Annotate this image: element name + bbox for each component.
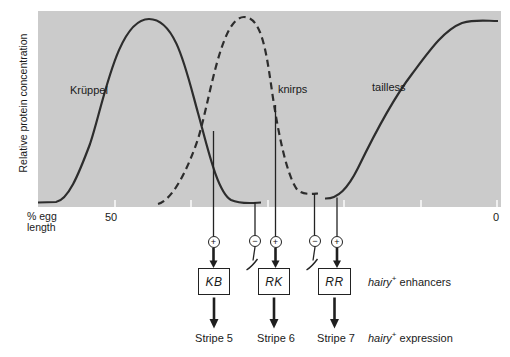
enhancer-box-rr: RR — [318, 268, 351, 295]
tick-label-50: 50 — [105, 211, 117, 223]
figure-root: Relative protein concentration % egg len… — [0, 0, 510, 357]
repression-line — [313, 247, 315, 261]
x-axis-label: % egg length — [27, 211, 57, 232]
plus-circle-icon: + — [331, 236, 343, 248]
expression-arrowhead — [330, 319, 339, 329]
enhancer-box-kb: KB — [198, 268, 230, 295]
activation-arrowhead — [333, 261, 341, 269]
gene-name: hairy — [368, 332, 392, 344]
plot-area — [38, 11, 501, 207]
x-tick — [190, 200, 192, 207]
stripe-7-label: Stripe 7 — [317, 332, 355, 344]
minus-circle-icon: − — [309, 235, 321, 247]
x-tick — [267, 200, 269, 207]
gene-superscript: + — [392, 330, 397, 339]
activation-arrows — [210, 248, 342, 268]
gene-name: hairy — [368, 276, 392, 288]
tailless-curve-label: tailless — [372, 81, 406, 93]
stripe-5-label: Stripe 5 — [195, 332, 233, 344]
y-axis-label: Relative protein concentration — [17, 34, 29, 173]
repression-line — [253, 247, 255, 261]
x-tick — [343, 200, 345, 207]
x-tick — [420, 200, 422, 207]
kruppel-curve-label: Krüppel — [70, 84, 108, 96]
plus-circle-icon: + — [208, 236, 220, 248]
gradient-diagram-svg — [0, 0, 510, 357]
caption-word: expression — [400, 332, 453, 344]
x-tick — [496, 200, 498, 207]
plus-circle-icon: + — [270, 236, 282, 248]
repression-connectors — [247, 247, 318, 270]
caption-word: enhancers — [400, 276, 451, 288]
knirps-curve-label: knirps — [278, 83, 307, 95]
minus-circle-icon: − — [249, 235, 261, 247]
repression-slash — [247, 259, 258, 270]
expression-arrows — [210, 298, 340, 329]
enhancer-box-rk: RK — [258, 268, 290, 295]
expression-arrowhead — [210, 319, 219, 329]
hairy-enhancers-caption: hairy+ enhancers — [368, 276, 451, 288]
expression-arrowhead — [270, 319, 279, 329]
activation-arrowhead — [210, 261, 218, 269]
activation-arrowhead — [272, 261, 280, 269]
x-tick — [114, 200, 116, 207]
tick-label-0: 0 — [493, 211, 499, 223]
gene-superscript: + — [392, 274, 397, 283]
repression-slash — [307, 259, 318, 270]
hairy-expression-caption: hairy+ expression — [368, 332, 453, 344]
stripe-6-label: Stripe 6 — [257, 332, 295, 344]
